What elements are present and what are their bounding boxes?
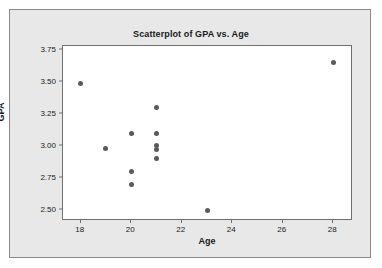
data-point xyxy=(103,146,108,151)
x-tick-label: 20 xyxy=(126,225,135,234)
data-point xyxy=(331,60,336,65)
x-tick-label: 18 xyxy=(75,225,84,234)
y-axis: GPA 2.502.753.003.253.503.75 xyxy=(10,45,62,220)
graph-panel: Scatterplot of GPA vs. Age GPA 2.502.753… xyxy=(9,9,371,258)
x-axis-title: Age xyxy=(62,236,352,246)
x-tick-label: 28 xyxy=(328,225,337,234)
x-tick-mark xyxy=(231,220,232,223)
data-point xyxy=(154,105,159,110)
y-axis-title: GPA xyxy=(0,103,6,122)
data-point xyxy=(154,131,159,136)
data-point xyxy=(129,131,134,136)
y-tick-label: 3.50 xyxy=(40,76,56,85)
chart-title: Scatterplot of GPA vs. Age xyxy=(10,29,372,39)
x-tick-mark xyxy=(181,220,182,223)
y-tick-label: 3.75 xyxy=(40,44,56,53)
x-tick-mark xyxy=(282,220,283,223)
data-point xyxy=(154,147,159,152)
data-point xyxy=(129,169,134,174)
x-tick-mark xyxy=(332,220,333,223)
y-tick-label: 3.25 xyxy=(40,108,56,117)
x-tick-label: 22 xyxy=(176,225,185,234)
data-point xyxy=(78,81,83,86)
data-point xyxy=(129,182,134,187)
data-point xyxy=(154,156,159,161)
x-tick-label: 26 xyxy=(277,225,286,234)
x-tick-label: 24 xyxy=(227,225,236,234)
y-tick-label: 2.50 xyxy=(40,205,56,214)
x-tick-mark xyxy=(80,220,81,223)
x-tick-mark xyxy=(130,220,131,223)
x-axis: Age 182022242628 xyxy=(62,220,352,250)
y-tick-label: 2.75 xyxy=(40,172,56,181)
data-point xyxy=(205,208,210,213)
plot-area xyxy=(62,45,352,220)
y-tick-label: 3.00 xyxy=(40,140,56,149)
figure-root: Scatterplot of GPA vs. Age GPA 2.502.753… xyxy=(0,0,382,268)
